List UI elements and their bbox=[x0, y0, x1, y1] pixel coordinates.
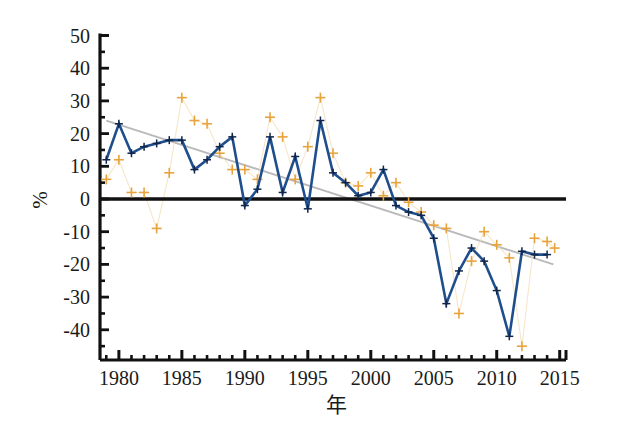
y-tick-label: -30 bbox=[63, 286, 90, 308]
y-tick-label: 50 bbox=[70, 25, 90, 47]
y-tick-label: 30 bbox=[70, 90, 90, 112]
y-tick-label: -20 bbox=[63, 253, 90, 275]
y-tick-label: -10 bbox=[63, 221, 90, 243]
chart-figure: -40-30-20-100102030405019801985199019952… bbox=[0, 0, 620, 434]
y-tick-label: 40 bbox=[70, 57, 90, 79]
x-tick-label: 2005 bbox=[414, 367, 454, 389]
y-tick-label: 0 bbox=[80, 188, 90, 210]
x-axis-title: 年 bbox=[326, 393, 347, 417]
x-tick-label: 2010 bbox=[477, 367, 517, 389]
x-tick-label: 1985 bbox=[162, 367, 202, 389]
x-tick-label: 2015 bbox=[540, 367, 580, 389]
x-tick-label: 1995 bbox=[288, 367, 328, 389]
x-tick-label: 1980 bbox=[99, 367, 139, 389]
y-tick-label: -40 bbox=[63, 319, 90, 341]
x-tick-label: 2000 bbox=[351, 367, 391, 389]
y-tick-label: 10 bbox=[70, 155, 90, 177]
y-tick-label: 20 bbox=[70, 123, 90, 145]
x-tick-label: 1990 bbox=[225, 367, 265, 389]
y-axis-title: % bbox=[28, 191, 52, 209]
